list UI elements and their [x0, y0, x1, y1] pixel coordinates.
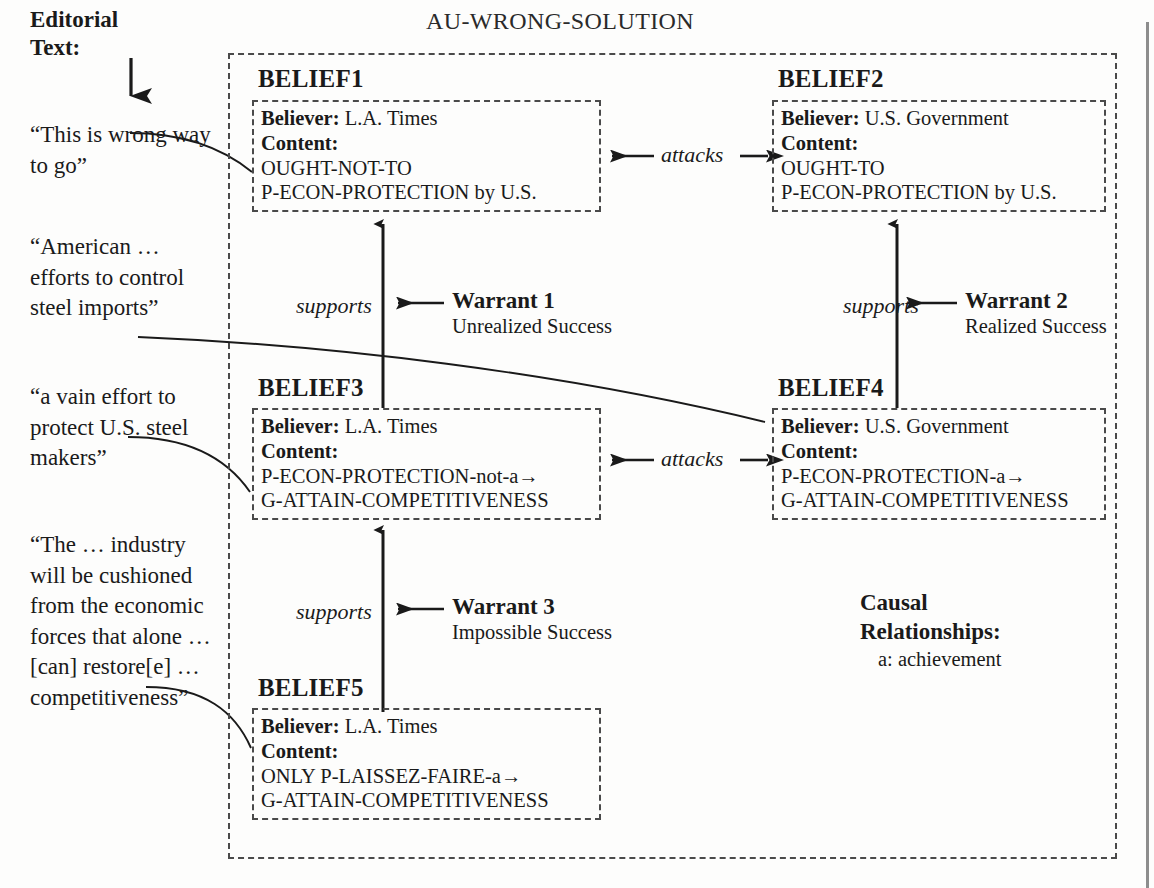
belief-believer-row: Believer: U.S. Government — [781, 414, 1097, 439]
believer-value: L.A. Times — [345, 415, 438, 437]
content-line: P-ECON-PROTECTION-not-a→ — [261, 464, 592, 489]
content-line: OUGHT-TO — [781, 156, 1097, 181]
belief-believer-row: Believer: L.A. Times — [261, 106, 592, 131]
content-label: Content: — [261, 439, 592, 464]
content-label: Content: — [261, 131, 592, 156]
belief-title-belief5: BELIEF5 — [258, 675, 364, 700]
believer-label: Believer: — [261, 715, 340, 737]
belief-title-belief4: BELIEF4 — [778, 375, 884, 400]
belief-box-belief1: Believer: L.A. Times Content: OUGHT-NOT-… — [252, 100, 601, 212]
belief-box-belief5: Believer: L.A. Times Content: ONLY P-LAI… — [252, 708, 601, 820]
diagram-page: AU-WRONG-SOLUTION EditorialText: “This i… — [0, 0, 1154, 888]
content-line: G-ATTAIN-COMPETITIVENESS — [261, 788, 592, 813]
relation-label-supports-1: supports — [296, 293, 372, 319]
content-label: Content: — [781, 439, 1097, 464]
content-line: G-ATTAIN-COMPETITIVENESS — [781, 488, 1097, 513]
content-line: G-ATTAIN-COMPETITIVENESS — [261, 488, 592, 513]
editorial-quote: “American … efforts to control steel imp… — [30, 232, 215, 324]
belief-box-belief3: Believer: L.A. Times Content: P-ECON-PRO… — [252, 408, 601, 520]
belief-title-belief1: BELIEF1 — [258, 66, 364, 91]
content-line: P-ECON-PROTECTION by U.S. — [781, 180, 1097, 205]
believer-value: L.A. Times — [345, 715, 438, 737]
content-label: Content: — [781, 131, 1097, 156]
content-label: Content: — [261, 739, 592, 764]
belief-believer-row: Believer: U.S. Government — [781, 106, 1097, 131]
warrant-name-1: Warrant 1 — [452, 289, 555, 314]
believer-label: Believer: — [781, 107, 860, 129]
believer-label: Believer: — [261, 415, 340, 437]
legend-item: a: achievement — [878, 648, 1002, 671]
warrant-subtitle-3: Impossible Success — [452, 621, 612, 644]
warrant-subtitle-2: Realized Success — [965, 315, 1107, 338]
relation-label-supports-2: supports — [843, 293, 919, 319]
editorial-quote: “The … industry will be cushioned from t… — [30, 530, 215, 713]
believer-value: U.S. Government — [865, 415, 1009, 437]
content-line: OUGHT-NOT-TO — [261, 156, 592, 181]
legend-title: CausalRelationships: — [860, 589, 1001, 646]
relation-label-attacks-1: attacks — [661, 142, 723, 168]
believer-label: Believer: — [261, 107, 340, 129]
believer-label: Believer: — [781, 415, 860, 437]
content-line: P-ECON-PROTECTION-a→ — [781, 464, 1097, 489]
page-edge-rule — [1146, 22, 1149, 888]
believer-value: L.A. Times — [345, 107, 438, 129]
editorial-quote: “a vain effort to protect U.S. steel mak… — [30, 382, 215, 474]
belief-believer-row: Believer: L.A. Times — [261, 414, 592, 439]
belief-believer-row: Believer: L.A. Times — [261, 714, 592, 739]
content-line: P-ECON-PROTECTION by U.S. — [261, 180, 592, 205]
warrant-name-2: Warrant 2 — [965, 289, 1068, 314]
belief-title-belief2: BELIEF2 — [778, 66, 884, 91]
warrant-name-3: Warrant 3 — [452, 595, 555, 620]
content-line: ONLY P-LAISSEZ-FAIRE-a→ — [261, 764, 592, 789]
belief-box-belief2: Believer: U.S. Government Content: OUGHT… — [772, 100, 1106, 212]
editorial-text-heading: EditorialText: — [30, 6, 200, 62]
relation-label-supports-3: supports — [296, 599, 372, 625]
relation-label-attacks-2: attacks — [661, 446, 723, 472]
believer-value: U.S. Government — [865, 107, 1009, 129]
belief-box-belief4: Believer: U.S. Government Content: P-ECO… — [772, 408, 1106, 520]
editorial-quote: “This is wrong way to go” — [30, 120, 215, 181]
warrant-subtitle-1: Unrealized Success — [452, 315, 612, 338]
belief-title-belief3: BELIEF3 — [258, 375, 364, 400]
